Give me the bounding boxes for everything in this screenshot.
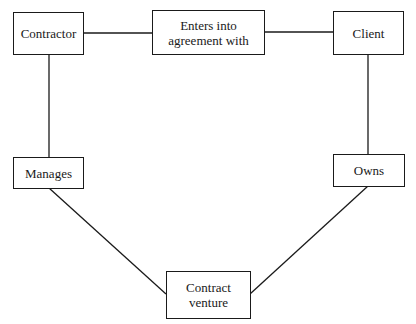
node-contractor: Contractor <box>13 12 84 55</box>
edge-manages-venture <box>49 188 166 294</box>
node-owns: Owns <box>333 154 405 187</box>
diagram-canvas: Contractor Enters into agreement with Cl… <box>0 0 416 324</box>
node-contractor-label: Contractor <box>21 26 77 41</box>
node-manages-label: Manages <box>25 166 72 181</box>
node-agreement-label: Enters into agreement with <box>168 18 249 48</box>
node-manages: Manages <box>13 157 84 189</box>
node-client: Client <box>333 11 404 55</box>
node-owns-label: Owns <box>354 163 384 178</box>
edge-owns-venture <box>250 186 368 294</box>
node-agreement: Enters into agreement with <box>152 10 265 55</box>
node-contract-venture-label: Contract venture <box>186 280 231 310</box>
node-contract-venture: Contract venture <box>166 271 251 319</box>
node-client-label: Client <box>353 26 385 41</box>
